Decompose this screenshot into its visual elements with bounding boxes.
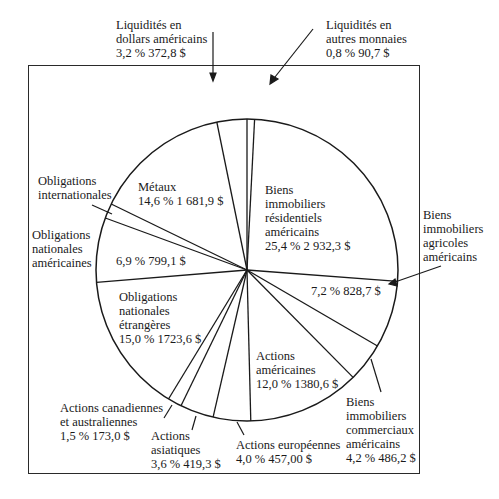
label-actions-americaines: Actions américaines 12,0 % 1380,6 $: [256, 349, 338, 391]
label-liquidites-usd: Liquidités en dollars américains 3,2 % 3…: [116, 18, 207, 60]
label-metaux: Métaux 14,6 % 1 681,9 $: [138, 180, 223, 208]
value-biens-agricoles: 7,2 % 828,7 $: [311, 284, 381, 298]
label-biens-residentiels: Biens immobiliers résidentiels américain…: [265, 183, 350, 253]
label-obligations-americaines: Obligations nationales américaines: [32, 228, 92, 270]
slice-divider: [247, 270, 378, 346]
label-obligations-internationales: Obligations internationales: [38, 174, 112, 202]
slice-divider: [247, 119, 255, 270]
slice-divider: [213, 270, 247, 417]
label-obligations-etrangeres: Obligations nationales étrangères 15,0 %…: [119, 290, 201, 346]
arrow-liq-other-icon: [270, 75, 278, 84]
slice-dividers: [97, 119, 398, 421]
value-obligations-americaines: 6,9 % 799,1 $: [116, 254, 186, 268]
arrow-agri-icon: [389, 279, 397, 286]
slice-divider: [247, 270, 398, 281]
label-liquidites-autres: Liquidités en autres monnaies 0,8 % 90,7…: [326, 18, 407, 60]
label-actions-canadiennes: Actions canadiennes et australiennes 1,5…: [60, 401, 163, 443]
slice-divider: [247, 270, 251, 421]
label-actions-europeennes: Actions européennes 4,0 % 457,00 $: [236, 438, 340, 466]
label-biens-agricoles: Biens immobiliers agricoles américains: [423, 208, 483, 264]
slice-divider: [97, 270, 248, 282]
arrow-liq-usd-icon: [210, 73, 216, 81]
label-biens-commerciaux: Biens immobiliers commerciaux américains…: [346, 395, 416, 465]
label-actions-asiatiques: Actions asiatiques 3,6 % 419,3 $: [151, 429, 221, 471]
